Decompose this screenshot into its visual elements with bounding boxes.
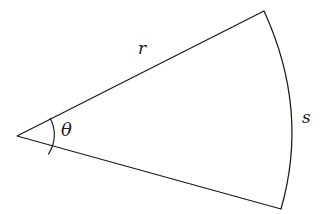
central-angle-arc [49, 118, 55, 153]
sector-outline [17, 11, 292, 209]
arc-length-label: s [302, 109, 311, 126]
sector-drawing [0, 0, 323, 214]
central-angle-label: θ [61, 121, 72, 139]
radius-label: r [138, 40, 146, 57]
sector-diagram: r θ s [0, 0, 323, 214]
